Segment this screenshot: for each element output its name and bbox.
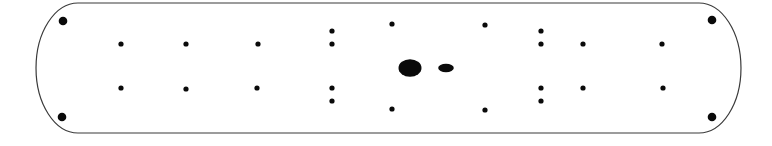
corner-hole [59,17,68,26]
corner-hole [708,113,717,122]
mounting-hole [389,106,394,111]
mounting-hole [538,28,543,33]
mounting-hole [538,41,543,46]
mounting-hole [118,85,123,90]
large-oval [399,59,422,77]
small-holes [118,21,665,112]
mounting-hole [580,41,585,46]
mounting-hole [183,41,188,46]
mounting-hole [538,85,543,90]
mounting-hole [329,41,334,46]
corner-holes [58,16,717,122]
mounting-hole [482,22,487,27]
center-features [399,59,454,77]
mounting-hole [255,41,260,46]
mounting-hole [254,85,259,90]
mounting-hole [482,107,487,112]
panel-outline [36,3,741,133]
panel-diagram [0,0,772,146]
corner-hole [708,16,717,25]
mounting-hole [183,86,188,91]
small-oval [438,64,454,72]
mounting-hole [580,85,585,90]
mounting-hole [660,85,665,90]
corner-hole [58,113,67,122]
mounting-hole [118,41,123,46]
mounting-hole [389,21,394,26]
mounting-hole [329,85,334,90]
mounting-hole [538,98,543,103]
mounting-hole [659,41,664,46]
mounting-hole [329,28,334,33]
mounting-hole [329,98,334,103]
diagram-stage [0,0,772,146]
